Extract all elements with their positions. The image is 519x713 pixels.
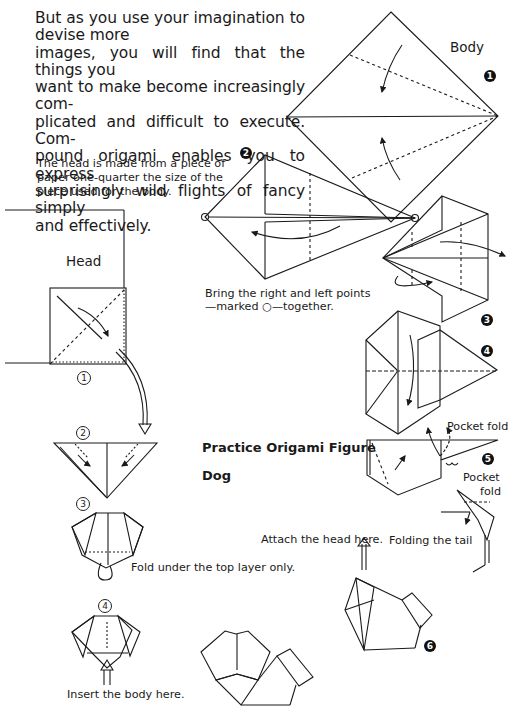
bring-points-instruction-line2: —marked ○—together. bbox=[205, 300, 334, 313]
body-step-6-marker: 6 bbox=[424, 640, 436, 652]
head-label: Head bbox=[66, 253, 101, 269]
bring-points-instruction-line1: Bring the right and left points bbox=[205, 287, 371, 300]
body-step-5-diagram bbox=[367, 428, 498, 495]
body-step-3-marker: 3 bbox=[481, 314, 493, 326]
body-step-5-marker: 5 bbox=[482, 453, 494, 465]
body-step-6-diagram bbox=[345, 538, 432, 650]
head-step-1-marker: 1 bbox=[77, 371, 91, 385]
folding-tail-label: Folding the tail bbox=[389, 534, 472, 547]
head-step-4-marker: 4 bbox=[98, 599, 112, 613]
head-step-4-diagram bbox=[72, 616, 140, 685]
figure-title: Practice Origami Figure bbox=[202, 440, 376, 455]
fold-under-instruction: Fold under the top layer only. bbox=[131, 561, 295, 574]
origami-diagrams bbox=[0, 0, 519, 713]
body-step-4-marker: 4 bbox=[481, 345, 493, 357]
head-step-3-marker: 3 bbox=[76, 497, 90, 511]
pocket-fold-label-2-line2: fold bbox=[480, 485, 501, 498]
body-step-1-marker: 1 bbox=[484, 70, 496, 82]
body-step-4-diagram bbox=[366, 311, 497, 434]
figure-subtitle: Dog bbox=[202, 468, 231, 483]
insert-body-instruction: Insert the body here. bbox=[67, 688, 185, 701]
body-step-2-marker: 2 bbox=[240, 147, 252, 159]
body-label: Body bbox=[450, 39, 484, 55]
head-step-1-diagram bbox=[5, 210, 151, 434]
tail-fold-diagram bbox=[441, 490, 494, 572]
completed-dog-diagram bbox=[201, 631, 313, 705]
pocket-fold-label-1: Pocket fold bbox=[447, 420, 508, 433]
attach-head-instruction: Attach the head here. bbox=[261, 533, 383, 546]
head-step-2-diagram bbox=[54, 443, 157, 498]
body-step-3-diagram bbox=[383, 196, 505, 322]
pocket-fold-label-2-line1: Pocket bbox=[463, 471, 500, 484]
head-step-2-marker: 2 bbox=[76, 426, 90, 440]
